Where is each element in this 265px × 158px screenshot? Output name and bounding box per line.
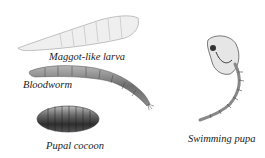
maggot-larva-drawing (18, 16, 138, 51)
pupal-cocoon-drawing (37, 106, 99, 132)
label-pupal-cocoon: Pupal cocoon (46, 140, 104, 151)
swimming-pupa-drawing (200, 36, 244, 120)
label-bloodworm: Bloodworm (23, 79, 72, 90)
label-swimming-pupa: Swimming pupa (188, 133, 255, 144)
label-maggot-larva: Maggot-like larva (49, 51, 125, 62)
illustration-canvas: Maggot-like larva Bloodworm Pupal cocoon… (0, 0, 265, 158)
